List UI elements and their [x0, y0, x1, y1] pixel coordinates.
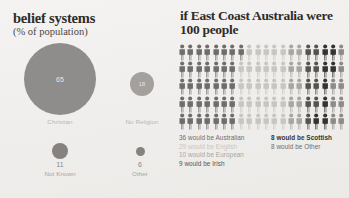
person-icon	[237, 61, 245, 78]
person-icon	[178, 78, 186, 95]
person-icon	[220, 96, 228, 113]
person-icon	[254, 44, 262, 61]
person-icon	[237, 96, 245, 113]
person-icon	[203, 44, 211, 61]
person-icon	[337, 113, 345, 130]
bubble-no-religion: 18	[130, 72, 154, 96]
person-icon	[203, 96, 211, 113]
bubble-other-value: 6	[120, 161, 160, 168]
person-icon	[329, 44, 337, 61]
person-icon	[329, 78, 337, 95]
person-icon	[312, 78, 320, 95]
person-icon	[262, 78, 270, 95]
person-icon	[186, 113, 194, 130]
person-icon	[212, 113, 220, 130]
person-icon	[195, 113, 203, 130]
person-icon	[304, 113, 312, 130]
person-icon	[203, 61, 211, 78]
person-icon	[270, 61, 278, 78]
bubble-other	[136, 147, 145, 156]
person-icon	[262, 44, 270, 61]
person-icon	[270, 78, 278, 95]
person-icon	[228, 96, 236, 113]
person-icon	[304, 61, 312, 78]
person-icon	[245, 113, 253, 130]
person-icon	[228, 113, 236, 130]
person-icon	[220, 113, 228, 130]
person-icon	[220, 61, 228, 78]
person-icon	[186, 44, 194, 61]
person-icon	[237, 44, 245, 61]
person-icon	[195, 78, 203, 95]
legend-item-left-2: 10 would be European	[179, 151, 271, 160]
person-icon	[279, 61, 287, 78]
person-icon	[287, 44, 295, 61]
bubble-christian: 65	[24, 43, 96, 115]
person-icon	[254, 113, 262, 130]
person-icon	[203, 78, 211, 95]
legend-item-left-1: 29 would be English	[179, 143, 271, 152]
person-icon	[287, 113, 295, 130]
person-icon	[304, 78, 312, 95]
person-icon	[337, 96, 345, 113]
person-icon	[295, 61, 303, 78]
bubble-christian-value: 65	[56, 76, 64, 83]
person-icon	[312, 44, 320, 61]
legend-column-right: 8 would be Scottish8 would be Other	[271, 134, 349, 151]
person-icon	[220, 78, 228, 95]
bubble-not-known-label: Not Known	[32, 170, 88, 177]
person-icon	[262, 96, 270, 113]
person-icon	[329, 96, 337, 113]
person-icon	[279, 113, 287, 130]
person-icon	[279, 44, 287, 61]
person-icon	[337, 44, 345, 61]
legend-item-right-1: 8 would be Other	[271, 143, 349, 152]
person-icon	[337, 78, 345, 95]
legend-column-left: 36 would be Australian29 would be Englis…	[179, 134, 271, 168]
person-icon	[245, 78, 253, 95]
person-icon	[295, 113, 303, 130]
person-icon	[321, 78, 329, 95]
belief-systems-title: belief systems	[13, 10, 95, 27]
person-icon	[312, 61, 320, 78]
person-icon	[228, 44, 236, 61]
person-icon	[329, 113, 337, 130]
person-icon	[178, 61, 186, 78]
person-icon	[287, 96, 295, 113]
person-icon	[304, 96, 312, 113]
infographic-page: belief systems (% of population) 65 Chri…	[0, 0, 349, 198]
person-icon	[220, 44, 228, 61]
person-icon	[186, 96, 194, 113]
person-icon	[212, 96, 220, 113]
legend-item-right-0: 8 would be Scottish	[271, 134, 349, 143]
person-icon	[321, 96, 329, 113]
person-icon	[270, 44, 278, 61]
person-icon	[178, 113, 186, 130]
person-icon	[312, 96, 320, 113]
person-icon	[245, 44, 253, 61]
person-icon	[279, 96, 287, 113]
person-icon	[212, 78, 220, 95]
person-icon	[186, 61, 194, 78]
person-icon	[295, 96, 303, 113]
belief-systems-subtitle: (% of population)	[13, 26, 88, 37]
person-icon	[287, 78, 295, 95]
person-icon	[186, 78, 194, 95]
person-icon	[212, 44, 220, 61]
belief-systems-panel: belief systems (% of population) 65 Chri…	[0, 0, 175, 198]
person-icon	[195, 61, 203, 78]
person-icon	[195, 96, 203, 113]
person-icon	[262, 113, 270, 130]
person-icon	[195, 44, 203, 61]
person-icon	[237, 78, 245, 95]
person-icon	[245, 61, 253, 78]
bubble-not-known-value: 11	[40, 161, 80, 168]
person-icon	[321, 113, 329, 130]
person-icon	[337, 61, 345, 78]
population-breakdown-panel: if East Coast Australia were 100 people …	[175, 0, 349, 198]
person-icon	[178, 96, 186, 113]
person-icon	[321, 44, 329, 61]
person-icon	[321, 61, 329, 78]
person-icon	[329, 61, 337, 78]
person-icon	[228, 78, 236, 95]
